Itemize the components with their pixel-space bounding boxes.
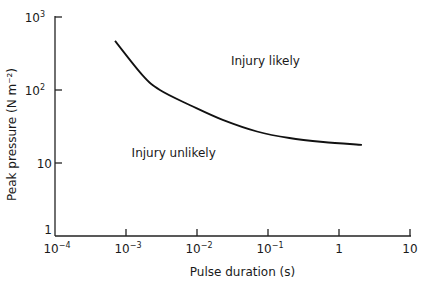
x-tick-label-base: 10 (185, 242, 200, 256)
y-tick-label-base: 10 (37, 157, 52, 171)
axes (55, 16, 411, 236)
y-tick-label: 10 (37, 157, 52, 171)
x-tick-label: 10−2 (185, 241, 212, 256)
y-tick-label: 103 (25, 10, 45, 25)
y-tick-label: 1 (44, 223, 52, 237)
x-tick-label-exponent: −4 (59, 241, 71, 250)
annotation-label: Injury likely (231, 54, 300, 68)
chart: 10−410−310−210−1110 110102103 Injury lik… (0, 0, 428, 290)
y-tick-label: 102 (25, 83, 45, 98)
x-tick-label-exponent: −2 (201, 241, 213, 250)
x-ticks: 10−410−310−210−1110 (43, 229, 417, 256)
x-tick-label-base: 10 (43, 242, 58, 256)
x-tick-label-base: 10 (114, 242, 129, 256)
y-tick-label-base: 10 (25, 11, 40, 25)
x-tick-label: 10−1 (256, 241, 283, 256)
x-tick-label-base: 10 (402, 242, 417, 256)
x-tick-label-exponent: −3 (130, 241, 142, 250)
y-tick-label-base: 10 (25, 84, 40, 98)
x-tick-label: 10 (402, 242, 417, 256)
x-tick-label-base: 1 (335, 242, 343, 256)
y-tick-label-base: 1 (44, 223, 52, 237)
annotation-label: Injury unlikely (132, 146, 216, 160)
y-tick-label-exponent: 2 (40, 83, 45, 92)
x-axis-title: Pulse duration (s) (190, 265, 295, 279)
y-ticks: 110102103 (25, 10, 62, 237)
annotations: Injury likelyInjury unlikely (132, 54, 300, 160)
y-axis-title: Peak pressure (N m⁻²) (5, 68, 19, 201)
x-tick-label-exponent: −1 (272, 241, 284, 250)
x-tick-label-base: 10 (256, 242, 271, 256)
x-tick-label: 10−4 (43, 241, 70, 256)
y-tick-label-exponent: 3 (40, 10, 45, 19)
x-tick-label: 10−3 (114, 241, 141, 256)
x-tick-label: 1 (335, 242, 343, 256)
